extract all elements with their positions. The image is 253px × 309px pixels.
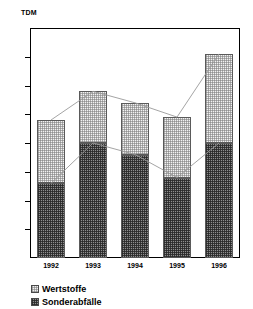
x-tick-label: 1995 xyxy=(157,262,197,269)
bar-segment-wertstoffe xyxy=(79,91,107,143)
legend-item-wertstoffe: Wertstoffe xyxy=(31,282,231,295)
x-tick-label: 1993 xyxy=(73,262,113,269)
bar-column xyxy=(121,28,149,258)
bar-column xyxy=(163,28,191,258)
bar-series-group xyxy=(30,28,240,258)
bar-segment-wertstoffe xyxy=(163,117,191,177)
y-axis: 0 10 20 30 40 50 60 70 80 xyxy=(0,0,30,309)
x-axis: 19921993199419951996 xyxy=(30,262,240,274)
bar-segment-sonderabfaelle xyxy=(37,183,65,258)
bar-segment-wertstoffe xyxy=(37,120,65,183)
x-tick-label: 1992 xyxy=(31,262,71,269)
legend-swatch-icon xyxy=(31,298,39,306)
stacked-bar-chart: TDM 0 10 20 30 40 50 60 70 80 1992199319… xyxy=(0,0,253,309)
legend-label: Sonderabfälle xyxy=(42,297,102,307)
legend-item-sonderabfaelle: Sonderabfälle xyxy=(31,295,231,308)
bar-column xyxy=(79,28,107,258)
legend-swatch-icon xyxy=(31,285,39,293)
bar-segment-sonderabfaelle xyxy=(205,143,233,258)
bar-segment-wertstoffe xyxy=(121,103,149,155)
bar-segment-sonderabfaelle xyxy=(79,143,107,258)
bar-segment-sonderabfaelle xyxy=(163,178,191,259)
chart-legend: Wertstoffe Sonderabfälle xyxy=(31,282,231,308)
x-tick-label: 1994 xyxy=(115,262,155,269)
bar-column xyxy=(205,28,233,258)
x-tick-label: 1996 xyxy=(199,262,239,269)
bar-segment-wertstoffe xyxy=(205,54,233,143)
legend-label: Wertstoffe xyxy=(42,284,86,294)
bar-segment-sonderabfaelle xyxy=(121,155,149,259)
bar-column xyxy=(37,28,65,258)
